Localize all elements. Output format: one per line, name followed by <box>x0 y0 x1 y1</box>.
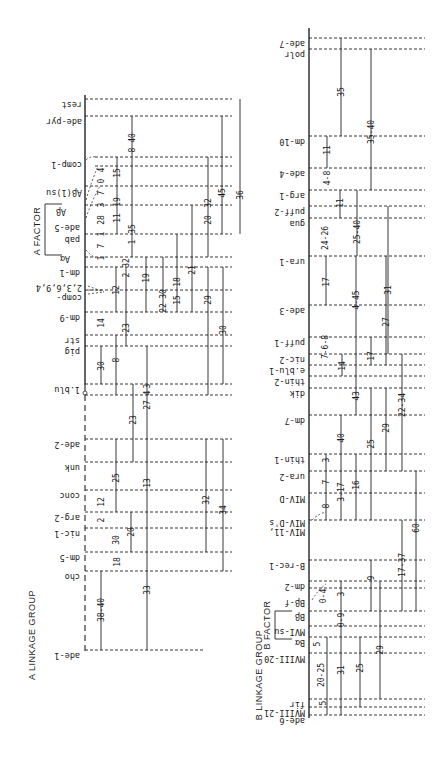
svg-text:0-4: 0-4 <box>319 589 328 604</box>
svg-text:43: 43 <box>352 391 361 401</box>
svg-text:19: 19 <box>142 273 151 283</box>
svg-text:1: 1 <box>97 231 106 236</box>
svg-text:5: 5 <box>319 700 328 705</box>
locus-label: 1.blu <box>54 385 80 395</box>
svg-text:15: 15 <box>113 168 122 178</box>
locus-label: gua <box>290 219 305 229</box>
svg-text:2: 2 <box>122 272 131 277</box>
group-a-locus-lines <box>85 99 232 650</box>
svg-text:18: 18 <box>173 277 182 287</box>
svg-text:3: 3 <box>97 202 106 207</box>
svg-text:7: 7 <box>97 243 106 248</box>
locus-label: dm-5 <box>60 553 80 563</box>
svg-text:35: 35 <box>337 87 346 97</box>
locus-label: dm-1 <box>60 268 80 278</box>
svg-text:16: 16 <box>352 480 361 490</box>
svg-text:11: 11 <box>323 145 332 155</box>
svg-text:27: 27 <box>143 400 152 410</box>
svg-text:23: 23 <box>129 415 138 425</box>
svg-text:15: 15 <box>173 295 182 305</box>
svg-text:3: 3 <box>337 591 346 596</box>
svg-text:35: 35 <box>128 224 137 234</box>
svg-text:2: 2 <box>97 517 106 522</box>
locus-label: dm-7 <box>285 416 305 426</box>
locus-label: ade-4 <box>279 169 305 179</box>
locus-label: Aβ <box>56 207 66 217</box>
svg-text:25-40: 25-40 <box>353 220 362 244</box>
svg-text:7-6-8: 7-6-8 <box>321 335 330 359</box>
svg-text:3-17: 3-17 <box>337 482 346 501</box>
locus-label: dm-10 <box>279 137 305 147</box>
locus-label: MVIII-20 <box>264 654 305 664</box>
svg-text:0: 0 <box>97 178 106 183</box>
svg-text:5: 5 <box>313 641 322 646</box>
svg-text:45: 45 <box>218 188 227 198</box>
svg-text:31: 31 <box>337 665 346 675</box>
locus-label: MVI-su <box>274 627 305 637</box>
svg-text:38-40: 38-40 <box>97 598 106 622</box>
group-a-title: A LINKAGE GROUP <box>27 590 37 680</box>
svg-text:1: 1 <box>97 255 106 260</box>
svg-text:4-45: 4-45 <box>352 290 361 309</box>
svg-text:31: 31 <box>384 285 393 295</box>
locus-label: comp-1 <box>51 160 82 170</box>
locus-label: ade-5 <box>54 223 80 233</box>
locus-label: e.blu-1 <box>269 366 305 376</box>
svg-text:12: 12 <box>97 497 106 507</box>
svg-text:9: 9 <box>367 575 376 580</box>
svg-text:17-37: 17-37 <box>398 553 407 577</box>
svg-text:20: 20 <box>127 527 136 537</box>
svg-text:32: 32 <box>202 495 211 505</box>
linkage-map-figure: 38-40 33 18 30 20 2 12 25 13 23 32 34 27… <box>0 0 447 757</box>
svg-text:30: 30 <box>112 535 121 545</box>
group-b-distance-labels: 35 35-40 11 4-8 11 25-40 24-26 17 4-45 3… <box>313 87 421 705</box>
svg-text:8: 8 <box>322 503 331 508</box>
locus-label: puff-1 <box>274 338 305 348</box>
locus-label: nic-1 <box>54 529 80 539</box>
locus-label: ura-1 <box>279 257 305 267</box>
locus-label: Bα <box>295 638 305 648</box>
svg-text:14: 14 <box>97 318 106 328</box>
locus-label: cho <box>65 572 80 582</box>
svg-text:36: 36 <box>236 190 245 200</box>
svg-text:25: 25 <box>112 473 121 483</box>
svg-text:35-40: 35-40 <box>367 120 376 144</box>
svg-text:20: 20 <box>204 215 213 225</box>
locus-label: rest <box>62 100 82 110</box>
locus-label: ade-3 <box>279 306 305 316</box>
svg-text:11: 11 <box>336 198 345 208</box>
svg-text:40: 40 <box>337 433 346 443</box>
svg-text:19: 19 <box>113 197 122 207</box>
locus-label: MIV-11, <box>269 527 305 537</box>
locus-label: ade-1 <box>54 651 80 661</box>
locus-label: ade-2 <box>54 440 80 450</box>
group-b-title: B LINKAGE GROUP <box>254 630 264 721</box>
svg-text:34: 34 <box>219 505 228 515</box>
locus-label: dik <box>290 389 305 399</box>
svg-text:27: 27 <box>382 317 391 327</box>
locus-label: Bβ <box>295 612 305 622</box>
svg-text:11: 11 <box>113 213 122 223</box>
linkage-group-b: 35 35-40 11 4-8 11 25-40 24-26 17 4-45 3… <box>254 28 425 726</box>
svg-text:8: 8 <box>128 147 137 152</box>
locus-label: ade-7 <box>279 39 305 49</box>
svg-text:29: 29 <box>382 423 391 433</box>
linkage-group-a: 38-40 33 18 30 20 2 12 25 13 23 32 34 27… <box>27 95 245 680</box>
locus-label: puff-2 <box>274 207 305 217</box>
svg-text:32: 32 <box>204 198 213 208</box>
svg-text:13: 13 <box>143 478 152 488</box>
locus-label: arg-2 <box>54 513 80 523</box>
svg-text:17: 17 <box>322 277 331 287</box>
locus-label: B-rec-1 <box>269 561 305 571</box>
locus-label: thin-2 <box>274 377 305 387</box>
locus-label: str <box>65 336 80 346</box>
locus-label: ura-2 <box>279 472 305 482</box>
svg-text:24-26: 24-26 <box>321 226 330 250</box>
locus-label: nic-2 <box>279 355 305 365</box>
svg-text:25: 25 <box>356 663 365 673</box>
svg-text:0-9: 0-9 <box>337 613 346 628</box>
locus-label: pig <box>65 347 80 357</box>
locus-label: unk <box>65 463 80 473</box>
locus-label: comp- <box>56 293 82 303</box>
svg-text:30: 30 <box>159 289 168 299</box>
